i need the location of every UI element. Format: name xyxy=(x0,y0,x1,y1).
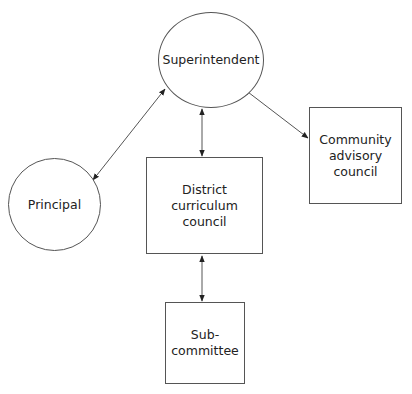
node-label: District curriculum council xyxy=(171,182,238,230)
node-label: Principal xyxy=(28,197,81,213)
edge-superintendent-community xyxy=(244,89,308,138)
node-principal: Principal xyxy=(8,158,101,251)
node-label: Sub- committee xyxy=(171,327,239,359)
node-community-advisory-council: Community advisory council xyxy=(309,107,402,204)
node-subcommittee: Sub- committee xyxy=(165,302,245,384)
node-label: Community advisory council xyxy=(319,132,391,180)
node-label: Superintendent xyxy=(163,52,260,68)
node-superintendent: Superintendent xyxy=(158,12,264,108)
node-district-curriculum-council: District curriculum council xyxy=(146,157,263,254)
